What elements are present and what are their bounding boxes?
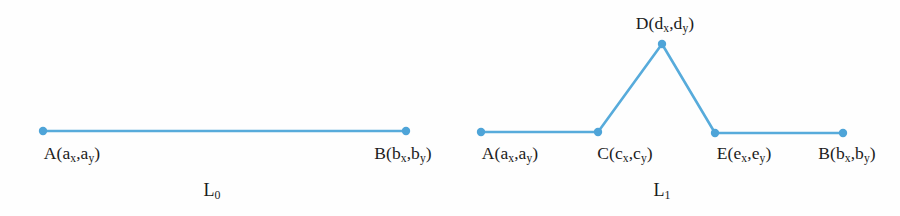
curve-label-L1: L1 (654, 181, 671, 199)
vertex-label-D-right: D(dx,dy) (636, 15, 695, 33)
vertex-label-B-left: B(bx,by) (374, 145, 432, 163)
polyline-L1 (477, 40, 847, 137)
polyline-L1-path (481, 44, 843, 133)
vertex-label-A-right: A(ax,ay) (482, 145, 539, 163)
vertex-dot-B-L1 (839, 129, 847, 137)
figure-canvas (0, 0, 900, 216)
figure-root: A(ax,ay) B(bx,by) L0 A(ax,ay) C(cx,cy) E… (0, 0, 900, 216)
vertex-dot-A-L0 (39, 127, 47, 135)
vertex-dot-B-L0 (402, 127, 410, 135)
vertex-dot-A-L1 (477, 128, 485, 136)
vertex-label-C-right: C(cx,cy) (597, 145, 653, 163)
vertex-label-B-right: B(bx,by) (818, 145, 876, 163)
vertex-label-E-right: E(ex,ey) (717, 145, 772, 163)
polyline-L0 (39, 127, 410, 135)
vertex-dot-D-L1 (658, 40, 666, 48)
vertex-label-A-left: A(ax,ay) (44, 145, 101, 163)
vertex-dot-C-L1 (594, 128, 602, 136)
vertex-dots-L1 (477, 40, 847, 137)
curve-label-L0: L0 (204, 181, 221, 199)
vertex-dot-E-L1 (711, 129, 719, 137)
